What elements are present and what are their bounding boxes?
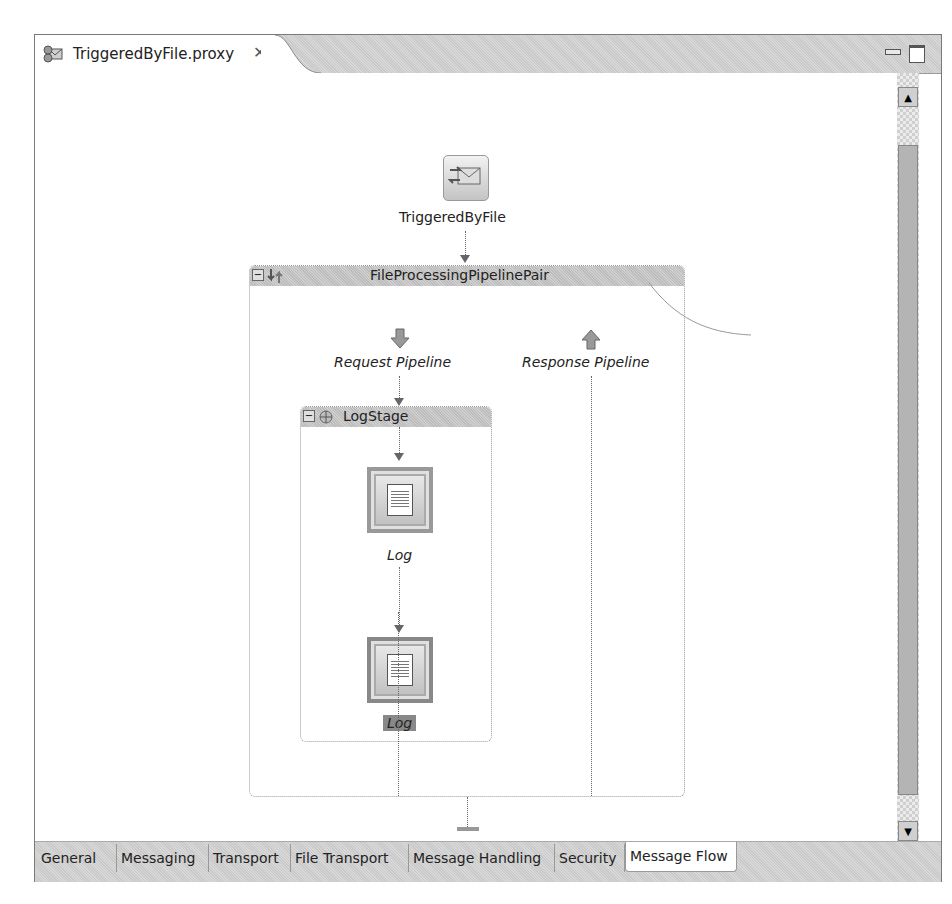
collapse-icon[interactable]: − [303, 410, 315, 422]
pipeline-pair-header[interactable]: − FileProcessingPipelinePair [250, 266, 684, 286]
scroll-down-button[interactable]: ▼ [898, 821, 918, 841]
vertical-scrollbar[interactable]: ▲ ▼ [897, 73, 919, 841]
proxy-service-icon [43, 45, 63, 63]
log-action-icon-selected[interactable] [367, 637, 433, 703]
arrow-down-icon [394, 625, 404, 633]
arrow-down-icon [394, 398, 404, 406]
editor-page-tabs: General Messaging Transport File Transpo… [35, 841, 941, 882]
message-flow-canvas[interactable]: TriggeredByFile − FileProcessingPipeline… [35, 73, 897, 841]
editor-tabbar: TriggeredByFile.proxy ✕ [35, 35, 941, 74]
proxy-node-label: TriggeredByFile [399, 209, 506, 225]
tab-messaging[interactable]: Messaging [117, 844, 209, 872]
proxy-editor: TriggeredByFile.proxy ✕ TriggeredByFile … [34, 34, 942, 882]
log-stage-container[interactable]: − LogStage Log Log [300, 406, 492, 742]
arrow-down-icon [460, 255, 470, 263]
document-icon [387, 484, 413, 516]
tab-curve [261, 35, 321, 73]
scroll-up-button[interactable]: ▲ [898, 87, 918, 107]
editor-tab-title: TriggeredByFile.proxy [73, 45, 234, 63]
document-icon [387, 654, 413, 686]
log-stage-label: LogStage [343, 408, 408, 424]
connector [467, 797, 468, 829]
connector [399, 376, 400, 400]
tab-message-handling[interactable]: Message Handling [409, 844, 555, 872]
arrow-down-icon [394, 453, 404, 461]
maximize-icon[interactable] [909, 45, 925, 63]
scroll-thumb[interactable] [898, 145, 918, 795]
connector [399, 427, 400, 455]
connector [398, 612, 399, 796]
request-pipeline-label[interactable]: Request Pipeline [334, 354, 451, 370]
collapse-icon[interactable]: − [252, 269, 264, 281]
log-stage-header[interactable]: − LogStage [301, 407, 491, 427]
tab-file-transport[interactable]: File Transport [291, 844, 409, 872]
tab-transport[interactable]: Transport [209, 844, 291, 872]
tab-general[interactable]: General [37, 844, 117, 872]
pipeline-pair-icon [266, 267, 284, 285]
editor-tab[interactable]: TriggeredByFile.proxy ✕ [35, 35, 275, 73]
pipeline-pair-label: FileProcessingPipelinePair [370, 267, 549, 283]
response-pipeline-label[interactable]: Response Pipeline [522, 354, 649, 370]
pipeline-pair-container[interactable]: − FileProcessingPipelinePair Request Pip… [249, 265, 685, 797]
proxy-envelope-icon [444, 156, 486, 198]
connector [591, 376, 592, 796]
connector [465, 231, 466, 257]
stage-icon [317, 408, 335, 426]
connector [399, 567, 400, 627]
link-curve [635, 277, 755, 337]
proxy-node-icon[interactable] [443, 155, 489, 201]
minimize-icon[interactable] [885, 49, 901, 55]
down-arrow-icon [389, 328, 411, 350]
tab-message-flow[interactable]: Message Flow [625, 842, 737, 872]
up-arrow-icon [580, 328, 602, 350]
log-action-icon[interactable] [367, 467, 433, 533]
log-action-label-selected: Log [383, 715, 416, 731]
flow-end-marker [457, 827, 479, 831]
log-action-label: Log [387, 547, 412, 563]
tab-security[interactable]: Security [555, 844, 625, 872]
